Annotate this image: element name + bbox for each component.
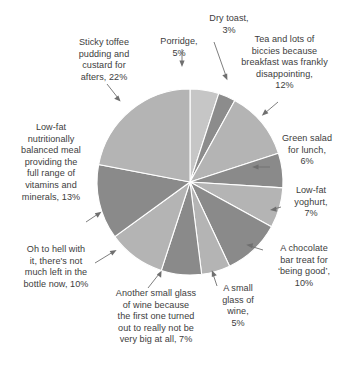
slice-label-low-fat-yoghurt: Low-fat yoghurt, 7% (281, 185, 341, 220)
slice-label-sticky-toffee-pudding: Sticky toffee pudding and custard for af… (58, 37, 150, 83)
slice-label-chocolate-bar: A chocolate bar treat for ‘being good’, … (265, 243, 343, 289)
slice-label-small-glass-of-wine: A small glass of wine, 5% (214, 283, 262, 329)
slice-label-tea-and-biccies: Tea and lots of biccies because breakfas… (232, 34, 337, 92)
leader-low-fat-meal (86, 212, 101, 222)
slice-label-dry-toast: Dry toast, 3% (196, 13, 262, 36)
leader-tea-biccies (262, 102, 278, 116)
slice-label-another-glass-of-wine: Another small glass of wine because the … (103, 288, 209, 346)
slice-label-low-fat-meal: Low-fat nutritionally balanced meal prov… (7, 122, 95, 203)
slice-label-green-salad: Green salad for lunch, 6% (272, 133, 342, 168)
slice-label-bottle-now: Oh to hell with it, there's not much lef… (8, 244, 104, 290)
leader-sticky-toffee (107, 84, 121, 101)
pie-chart-figure: Porridge, 5% Dry toast, 3% Tea and lots … (0, 0, 344, 371)
leader-dry-toast (214, 42, 227, 80)
slice-label-porridge: Porridge, 5% (148, 36, 210, 59)
leader-another-glass-wine (148, 271, 162, 288)
